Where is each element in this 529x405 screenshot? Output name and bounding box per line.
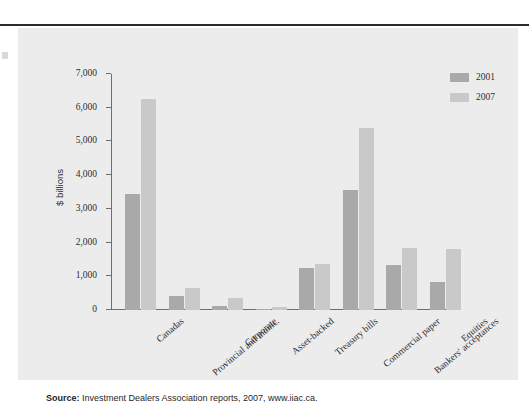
- legend-label-2001: 2001: [476, 72, 495, 82]
- y-tick-label: 7,000: [76, 68, 97, 78]
- legend-item-2007[interactable]: 2007: [450, 92, 495, 102]
- y-tick-label: 6,000: [76, 102, 97, 112]
- bar-2001[interactable]: [125, 194, 140, 310]
- bar-2001[interactable]: [299, 268, 314, 310]
- chart-legend: 2001 2007: [450, 72, 495, 112]
- legend-swatch-2007: [450, 93, 469, 102]
- x-axis-label: Treasury bills: [333, 316, 380, 358]
- y-tick-label: 1,000: [76, 270, 97, 280]
- x-axis-label: Commercial paper: [381, 316, 442, 370]
- figure-page: $ billions 01,0002,0003,0004,0005,0006,0…: [0, 0, 529, 405]
- y-tick-1000: 1,000: [106, 275, 111, 276]
- bar-2007[interactable]: [315, 264, 330, 310]
- y-axis-title: $ billions: [54, 169, 65, 206]
- source-note: Source: Investment Dealers Association r…: [46, 393, 318, 403]
- legend-item-2001[interactable]: 2001: [450, 72, 495, 82]
- source-text: Investment Dealers Association reports, …: [80, 393, 318, 403]
- x-axis-label: Corporate: [243, 316, 279, 349]
- x-axis-label: Asset-backed: [289, 316, 335, 357]
- bar-2007[interactable]: [446, 249, 461, 310]
- bar-2001[interactable]: [386, 265, 401, 310]
- bar-2007[interactable]: [141, 99, 156, 310]
- y-tick-label: 5,000: [76, 135, 97, 145]
- legend-swatch-2001: [450, 73, 469, 82]
- bar-2007[interactable]: [359, 128, 374, 310]
- x-axis-label: Canadas: [155, 316, 187, 345]
- y-axis-line: [111, 74, 112, 310]
- bar-2001[interactable]: [169, 296, 184, 310]
- bar-2001[interactable]: [212, 306, 227, 310]
- y-tick-label: 4,000: [76, 169, 97, 179]
- y-tick-label: 3,000: [76, 203, 97, 213]
- bar-2007[interactable]: [228, 298, 243, 310]
- chart-panel: $ billions 01,0002,0003,0004,0005,0006,0…: [18, 28, 518, 380]
- left-edge-tick: [2, 52, 8, 59]
- bar-2001[interactable]: [343, 190, 358, 310]
- y-tick-label: 0: [92, 304, 97, 314]
- bar-2001[interactable]: [430, 282, 445, 310]
- top-divider-rule: [0, 24, 529, 26]
- y-tick-2000: 2,000: [106, 242, 111, 243]
- y-tick-7000: 7,000: [106, 73, 111, 74]
- y-tick-5000: 5,000: [106, 140, 111, 141]
- y-tick-3000: 3,000: [106, 208, 111, 209]
- bar-2007[interactable]: [402, 248, 417, 310]
- plot-area: 01,0002,0003,0004,0005,0006,0007,000 Can…: [111, 74, 461, 310]
- y-tick-6000: 6,000: [106, 107, 111, 108]
- bar-2007[interactable]: [185, 288, 200, 310]
- bar-2007[interactable]: [272, 307, 287, 310]
- legend-label-2007: 2007: [476, 92, 495, 102]
- y-tick-4000: 4,000: [106, 174, 111, 175]
- y-tick-label: 2,000: [76, 237, 97, 247]
- y-tick-0: 0: [106, 309, 111, 310]
- bar-2001[interactable]: [256, 309, 271, 310]
- source-label: Source:: [46, 393, 80, 403]
